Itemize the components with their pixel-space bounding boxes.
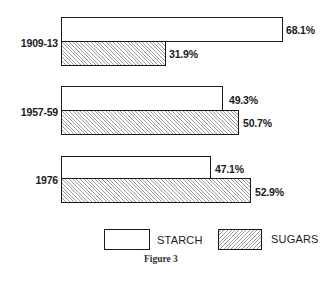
value-label-sugars-1976: 52.9% [255, 186, 284, 198]
value-label-starch-1976: 47.1% [215, 163, 244, 175]
value-label-starch-1909-13: 68.1% [286, 24, 315, 36]
bar-starch-1976 [61, 156, 211, 180]
bar-sugars-1909-13 [61, 41, 166, 66]
category-label-1909-13: 1909-13 [0, 37, 58, 49]
value-label-starch-1957-59: 49.3% [229, 94, 258, 106]
legend-swatch-starch [104, 229, 150, 250]
category-label-1976: 1976 [0, 174, 58, 186]
legend-swatch-sugars [218, 229, 262, 250]
legend-label-starch: STARCH [157, 234, 203, 246]
category-label-1957-59: 1957-59 [0, 106, 58, 118]
legend-label-sugars: SUGARS [271, 233, 319, 245]
bar-sugars-1957-59 [61, 110, 239, 135]
value-label-sugars-1909-13: 31.9% [169, 48, 198, 60]
figure-caption: Figure 3 [144, 254, 178, 265]
value-label-sugars-1957-59: 50.7% [243, 117, 272, 129]
bar-starch-1957-59 [61, 86, 223, 111]
bar-sugars-1976 [61, 178, 251, 203]
bar-starch-1909-13 [61, 17, 283, 42]
